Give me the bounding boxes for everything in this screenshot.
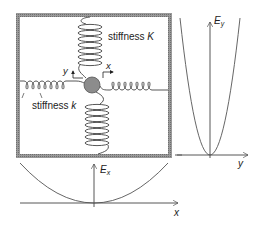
right-plot-xlabel: y [237, 158, 244, 169]
diagram-canvas: stiffness K stiffness k y x Ey y Ex x [0, 0, 261, 225]
top-spring-label: stiffness K [108, 31, 155, 42]
mass-ball [84, 77, 100, 93]
left-spring-label: stiffness k [32, 100, 77, 111]
right-plot-ylabel: Ey [214, 15, 225, 28]
right-energy-plot: Ey y [175, 15, 248, 169]
bottom-plot-xlabel: x [173, 207, 180, 218]
bottom-energy-plot: Ex x [20, 163, 180, 218]
bottom-plot-ylabel: Ex [100, 164, 111, 176]
